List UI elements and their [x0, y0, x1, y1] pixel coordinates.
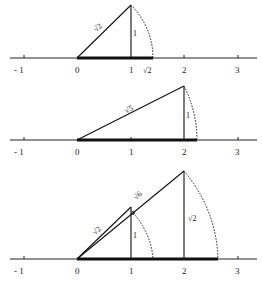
big-vertical-label: √2 [188, 214, 196, 223]
tick-label-1: 1 [129, 147, 134, 157]
panel-sqrt6: √2 1 √6 √2 - 1 0 1 2 3 [10, 171, 257, 276]
tick-label-2: 2 [182, 65, 187, 75]
tick-label-3: 3 [235, 266, 240, 276]
small-hypotenuse [77, 207, 131, 259]
tick-label-1: 1 [129, 266, 134, 276]
hypotenuse [77, 5, 131, 58]
hypotenuse-label: √2 [92, 21, 104, 33]
tick-label-2: 2 [182, 147, 187, 157]
vertical-label: 1 [186, 111, 190, 120]
vertical-label: 1 [133, 29, 137, 38]
point-label-sqrt2: √2 [143, 66, 151, 75]
tick-label-0: 0 [75, 65, 80, 75]
hypotenuse-label: √5 [123, 104, 135, 116]
tick-label-neg1: - 1 [14, 266, 24, 276]
panel-sqrt2: √2 1 - 1 0 1 √2 2 3 [10, 5, 257, 75]
tick-label-neg1: - 1 [14, 147, 24, 157]
small-hypotenuse-label: √2 [91, 224, 103, 236]
tick-label-0: 0 [75, 147, 80, 157]
tick-label-3: 3 [235, 147, 240, 157]
tick-label-1: 1 [129, 65, 134, 75]
panel-sqrt5: √5 1 - 1 0 1 2 3 [10, 86, 257, 157]
small-vertical-label: 1 [133, 231, 137, 240]
big-hypotenuse-label: √6 [132, 189, 144, 201]
tick-label-2: 2 [182, 266, 187, 276]
tick-label-0: 0 [75, 266, 80, 276]
diagram-canvas: √2 1 - 1 0 1 √2 2 3 √5 1 - 1 0 1 2 3 [0, 0, 262, 281]
tick-label-3: 3 [235, 65, 240, 75]
tick-label-neg1: - 1 [14, 65, 24, 75]
